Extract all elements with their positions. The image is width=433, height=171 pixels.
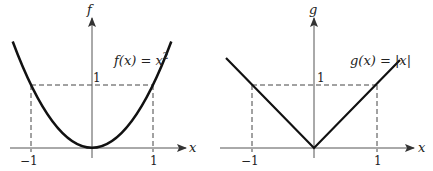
left-tick-pos1: 1 — [150, 154, 158, 168]
left-x-axis-label: x — [189, 140, 197, 155]
left-function-label: f(x) = x2 — [113, 51, 169, 68]
figure: f x f(x) = x2 −1 1 1 g x g(x) = |x| −1 1… — [0, 0, 433, 171]
right-tick-y1: 1 — [317, 71, 325, 85]
left-tick-neg1: −1 — [20, 154, 38, 168]
right-y-axis-label: g — [309, 2, 317, 17]
right-tick-neg1: −1 — [241, 154, 259, 168]
right-x-axis-label: x — [418, 140, 426, 155]
left-tick-y1: 1 — [93, 71, 101, 85]
right-tick-pos1: 1 — [374, 154, 382, 168]
left-chart: f x f(x) = x2 −1 1 1 — [10, 2, 197, 168]
right-chart: g x g(x) = |x| −1 1 1 — [220, 2, 426, 168]
left-y-axis-label: f — [86, 2, 94, 17]
right-function-label: g(x) = |x| — [350, 53, 411, 68]
